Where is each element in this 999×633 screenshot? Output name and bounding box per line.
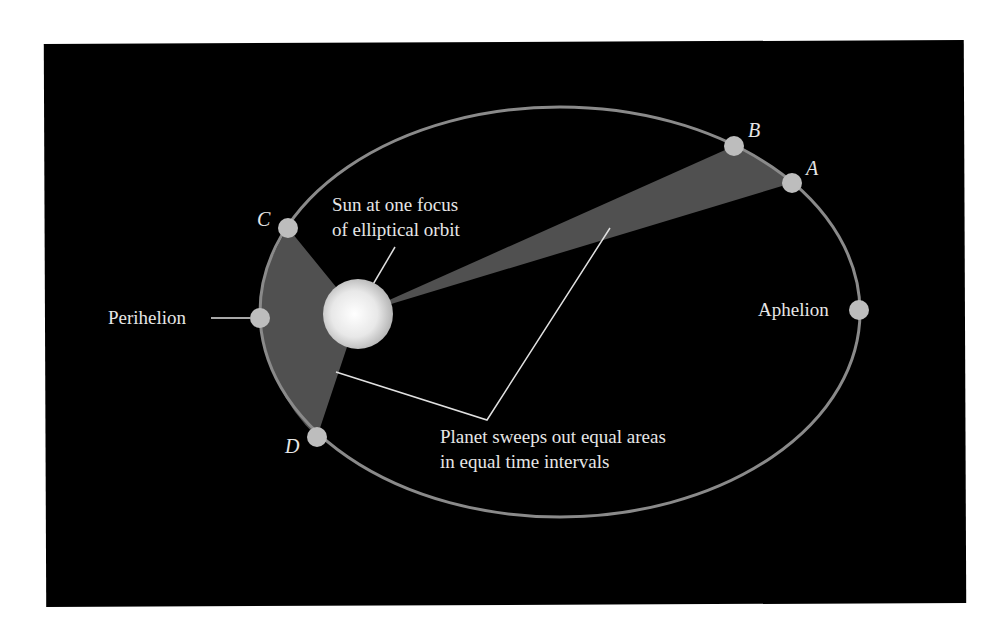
equal-areas-label-line2: in equal time intervals xyxy=(440,451,609,472)
label-a: A xyxy=(804,157,819,179)
planet-point-perihelion xyxy=(250,308,270,328)
sun-label-line2: of elliptical orbit xyxy=(332,219,460,240)
equal-areas-label-line1: Planet sweeps out equal areas xyxy=(440,426,666,447)
planet-point-b xyxy=(724,136,744,156)
planet-point-aphelion xyxy=(849,300,869,320)
planet-point-d xyxy=(307,427,327,447)
planet-point-c xyxy=(278,218,298,238)
label-aphelion: Aphelion xyxy=(758,299,829,320)
label-d: D xyxy=(284,435,300,457)
label-c: C xyxy=(257,208,271,230)
label-perihelion: Perihelion xyxy=(108,307,187,328)
orbit-diagram: A B C D Perihelion Aphelion Sun at one f… xyxy=(0,0,999,633)
sun-label-line1: Sun at one focus xyxy=(332,194,458,215)
label-b: B xyxy=(748,119,760,141)
sun-icon xyxy=(323,279,393,349)
planet-point-a xyxy=(782,173,802,193)
